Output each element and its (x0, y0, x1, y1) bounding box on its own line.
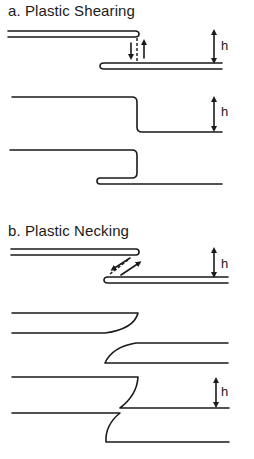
diagram-canvas (0, 0, 254, 459)
panel-b-stage-3 (12, 377, 229, 442)
upper-plate (8, 31, 139, 37)
panel-a-stage-3 (10, 150, 222, 184)
sheared-plate-step (12, 97, 222, 132)
sheared-folded-plate (10, 150, 222, 184)
panel-b-stage-2 (12, 313, 228, 363)
upper-plate (11, 249, 139, 255)
necked-upper-plate-offset (12, 377, 229, 408)
arrow-diagonal-up-right-icon (121, 263, 139, 275)
panel-a-stage-2 (12, 97, 222, 132)
lower-plate (100, 63, 222, 69)
lower-plate (104, 277, 228, 283)
necked-lower-plate-offset (12, 413, 229, 442)
panel-b-stage-1 (11, 249, 228, 283)
arrow-diagonal-down-left-icon (113, 258, 130, 269)
necked-upper-plate (12, 313, 138, 333)
panel-a-stage-1 (8, 31, 222, 69)
necked-lower-plate (105, 343, 228, 363)
